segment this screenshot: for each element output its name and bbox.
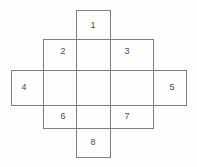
cross-outline-path <box>11 10 186 157</box>
cross-outline <box>11 10 186 157</box>
cell-3-label: 3 <box>124 46 129 56</box>
cell-6-label: 6 <box>60 111 65 121</box>
cell-1-label: 1 <box>90 20 95 30</box>
cell-4-label: 4 <box>21 82 26 92</box>
cell-2-label: 2 <box>60 46 65 56</box>
cell-5-label: 5 <box>169 82 174 92</box>
cell-8-label: 8 <box>90 137 95 147</box>
cross-diagram-canvas: 12345678 <box>0 0 197 167</box>
cross-diagram-svg: 12345678 <box>0 0 197 167</box>
cell-divider-lines <box>11 10 186 157</box>
cell-7-label: 7 <box>124 111 129 121</box>
